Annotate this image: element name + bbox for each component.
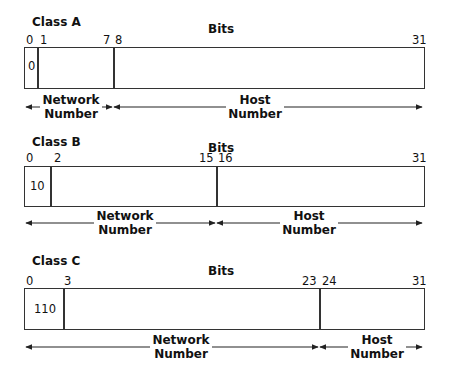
number-word: Number (226, 107, 284, 121)
class-a-tick-7: 7 (103, 33, 110, 47)
class-c-network-number-label: Network Number (150, 333, 212, 361)
class-b-label: Class B (32, 135, 81, 149)
number-word: Number (94, 223, 156, 237)
class-b-host-number-label: Host Number (280, 209, 338, 237)
host-word: Host (348, 333, 406, 347)
class-a-tick-1: 1 (40, 33, 47, 47)
class-c-tick-3: 3 (64, 274, 71, 288)
number-word: Number (348, 347, 406, 361)
host-word: Host (280, 209, 338, 223)
class-c-tick-0: 0 (26, 274, 33, 288)
class-c-prefix-divider (63, 288, 65, 330)
class-a-network-host-divider (113, 47, 115, 89)
class-b-tick-15: 15 (199, 151, 214, 165)
network-word: Network (150, 333, 212, 347)
class-b-network-host-divider (216, 166, 218, 207)
class-c-address-box (24, 288, 425, 330)
class-b-network-number-label: Network Number (94, 209, 156, 237)
class-a-tick-0: 0 (26, 33, 33, 47)
class-a-tick-8: 8 (115, 33, 122, 47)
class-c-bits-label: Bits (208, 264, 234, 278)
class-a-bits-label: Bits (208, 22, 234, 36)
class-c-label: Class C (32, 254, 80, 268)
class-a-label: Class A (32, 15, 81, 29)
network-word: Network (40, 93, 102, 107)
class-a-prefix-divider (37, 47, 39, 89)
class-c-network-host-divider (319, 288, 321, 330)
class-c-prefix: 110 (34, 302, 56, 316)
class-a-host-number-label: Host Number (226, 93, 284, 121)
class-b-prefix: 10 (30, 179, 45, 193)
network-word: Network (94, 209, 156, 223)
class-b-address-box (24, 166, 425, 207)
class-b-tick-16: 16 (218, 151, 233, 165)
class-c-tick-23: 23 (302, 274, 317, 288)
class-a-tick-31: 31 (412, 33, 427, 47)
class-b-prefix-divider (50, 166, 52, 207)
class-b-tick-0: 0 (26, 151, 33, 165)
class-c-host-number-label: Host Number (348, 333, 406, 361)
class-c-tick-24: 24 (322, 274, 337, 288)
number-word: Number (150, 347, 212, 361)
number-word: Number (280, 223, 338, 237)
class-c-tick-31: 31 (412, 274, 427, 288)
number-word: Number (40, 107, 102, 121)
class-a-address-box (24, 47, 425, 89)
class-a-prefix: 0 (28, 59, 35, 73)
class-a-network-number-label: Network Number (40, 93, 102, 121)
class-b-tick-31: 31 (412, 151, 427, 165)
host-word: Host (226, 93, 284, 107)
class-b-tick-2: 2 (54, 151, 61, 165)
